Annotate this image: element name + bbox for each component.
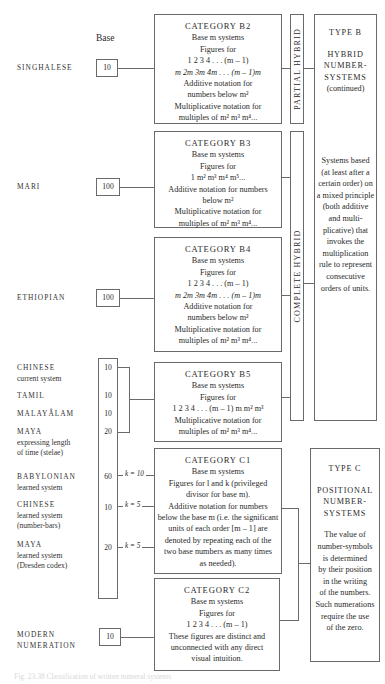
type-c-desc: in the writing bbox=[311, 576, 379, 588]
connector-line bbox=[117, 432, 129, 433]
system-subtitle: expressing length bbox=[17, 438, 70, 449]
category-b4-title: CATEGORY B4 bbox=[155, 244, 281, 255]
connector-line bbox=[282, 68, 290, 69]
system-subtitle: (number-bars) bbox=[17, 521, 62, 532]
category-text: multiples of m² m³ m⁴... bbox=[155, 335, 281, 346]
connector-line bbox=[120, 187, 154, 188]
category-text: Base m systems bbox=[155, 149, 281, 160]
category-c2-box: CATEGORY C2 Base m systems Figures for 1… bbox=[154, 578, 280, 671]
category-text: Base m systems bbox=[155, 32, 281, 43]
system-subtitle: learned system bbox=[17, 551, 67, 562]
base-value: 10 bbox=[97, 409, 119, 418]
connector-line bbox=[117, 367, 129, 368]
type-b-box: TYPE B HYBRID NUMBER- SYSTEMS (continued… bbox=[314, 14, 377, 421]
system-name: MAYA bbox=[17, 540, 42, 549]
type-b-desc: rule to represent bbox=[315, 259, 376, 271]
system-name: CHINESE bbox=[17, 500, 55, 509]
category-text: below m² bbox=[155, 195, 281, 206]
type-c-desc: of the zero. bbox=[311, 622, 379, 634]
connector-line bbox=[118, 68, 154, 69]
category-c2-title: CATEGORY C2 bbox=[155, 585, 279, 596]
category-b5-title: CATEGORY B5 bbox=[155, 369, 281, 380]
type-b-heading: (continued) bbox=[315, 83, 376, 95]
base-box-ethiopian: 100 bbox=[96, 289, 120, 307]
category-text: as needed). bbox=[155, 558, 281, 569]
connector-line bbox=[282, 295, 290, 296]
category-b2-box: CATEGORY B2 Base m systems Figures for 1… bbox=[154, 14, 282, 124]
category-text: 1 2 3 4 . . . (m – 1) bbox=[155, 55, 281, 66]
category-text: 1 m² m³ m⁴ m⁵... bbox=[155, 172, 281, 183]
category-b3-title: CATEGORY B3 bbox=[155, 138, 281, 149]
category-text: Figures for bbox=[155, 267, 281, 278]
category-text: two base numbers as many times bbox=[155, 546, 281, 557]
category-text: Figures for bbox=[155, 161, 281, 172]
category-text: below the base m (i.e. the significant bbox=[155, 512, 281, 523]
system-subtitle: learned system bbox=[17, 483, 76, 494]
category-text: Additive notation for bbox=[155, 78, 281, 89]
type-b-desc: certain order) on bbox=[315, 178, 376, 190]
system-label-maya-learned: MAYA learned system (Dresden codex) bbox=[17, 540, 67, 572]
connector-line bbox=[304, 68, 314, 69]
category-text: Figures for bbox=[155, 44, 281, 55]
category-text: Additive notation for numbers bbox=[155, 184, 281, 195]
connector-line bbox=[282, 177, 290, 178]
base-value: 20 bbox=[97, 543, 119, 552]
category-text: 1 2 3 4 . . . (m – 1) bbox=[155, 278, 281, 289]
k-label: k = 10 bbox=[123, 470, 146, 478]
bracket-line bbox=[129, 367, 130, 433]
system-label-modern: MODERN NUMERATION bbox=[17, 630, 76, 651]
type-c-heading: SYSTEMS bbox=[311, 508, 379, 520]
category-text: Multiplicative notation for bbox=[155, 415, 281, 426]
system-label-ethiopian: ETHIOPIAN bbox=[17, 293, 65, 304]
base-column-header: Base bbox=[96, 33, 114, 43]
type-b-title: TYPE B bbox=[315, 27, 376, 39]
type-b-desc: a mixed principle bbox=[315, 190, 376, 202]
category-text: divisor for base m). bbox=[155, 489, 281, 500]
base-value: 10 bbox=[97, 363, 119, 372]
category-text: Base m systems bbox=[155, 380, 281, 391]
category-b4-box: CATEGORY B4 Base m systems Figures for 1… bbox=[154, 237, 282, 352]
connector-line bbox=[298, 563, 310, 564]
system-label-babylonian: BABYLONIAN learned system bbox=[17, 472, 76, 493]
type-c-desc: Such numerations bbox=[311, 599, 379, 611]
system-label-mari: MARI bbox=[17, 182, 40, 193]
category-text: multiples of m² m³ m⁴... bbox=[155, 112, 281, 123]
connector-line bbox=[282, 508, 298, 509]
type-b-desc: (both additive bbox=[315, 201, 376, 213]
category-text: Figures for l and k (privileged bbox=[155, 478, 281, 489]
type-c-desc: require the use bbox=[311, 611, 379, 623]
type-c-desc: by their position bbox=[311, 564, 379, 576]
type-c-box: TYPE C POSITIONAL NUMBER- SYSTEMS The va… bbox=[310, 448, 380, 662]
k-label: k = 5 bbox=[123, 542, 142, 550]
category-text: units of each order [m – 1] are bbox=[155, 523, 281, 534]
bracket-line bbox=[298, 508, 299, 621]
connector-line bbox=[280, 620, 298, 621]
connector-line bbox=[282, 397, 290, 398]
partial-hybrid-label: PARTIAL HYBRID bbox=[293, 28, 302, 110]
system-label-singhalese: SINGHALESE bbox=[17, 63, 73, 74]
type-b-desc: multiplication bbox=[315, 248, 376, 260]
category-text: Additive notation for numbers bbox=[155, 501, 281, 512]
connector-line bbox=[120, 298, 154, 299]
category-text: m 2m 3m 4m . . . (m – 1)m bbox=[155, 67, 281, 78]
system-label-tamil: TAMIL bbox=[17, 391, 45, 402]
category-c1-title: CATEGORY C1 bbox=[155, 455, 281, 466]
category-text: These figures are distinct and bbox=[155, 631, 279, 642]
system-name: MAYA bbox=[17, 427, 42, 436]
system-name: CHINESE bbox=[17, 363, 55, 372]
type-b-heading: SYSTEMS bbox=[315, 72, 376, 84]
category-text: Base m systems bbox=[155, 596, 279, 607]
figure-caption: Fig. 23.38 Classification of written num… bbox=[14, 672, 171, 681]
category-text: Figures for bbox=[155, 392, 281, 403]
category-b3-box: CATEGORY B3 Base m systems Figures for 1… bbox=[154, 131, 282, 228]
type-b-desc: and multi- bbox=[315, 213, 376, 225]
base-box-singhalese: 10 bbox=[96, 59, 118, 77]
system-subtitle: learned system bbox=[17, 511, 62, 522]
category-text: Figures for bbox=[155, 608, 279, 619]
type-c-title: TYPE C bbox=[311, 463, 379, 475]
category-text: Base m systems bbox=[155, 466, 281, 477]
category-text: multiples of m² m³ m⁴... bbox=[155, 218, 281, 229]
type-c-desc: of the numbers. bbox=[311, 587, 379, 599]
base-value: 20 bbox=[97, 427, 119, 436]
system-label-chinese-current: CHINESE current system bbox=[17, 363, 62, 384]
